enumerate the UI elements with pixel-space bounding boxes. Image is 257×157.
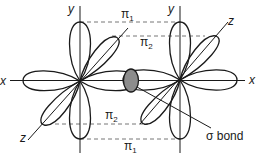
right-pz-lower-lobe (141, 80, 180, 124)
right-z-label: z (227, 14, 234, 28)
sigma-bond-label: σ bond (206, 129, 243, 143)
left-x-label: x (0, 74, 7, 88)
right-pz-upper-lobe (180, 36, 219, 80)
left-y-label: y (67, 2, 75, 16)
pi1-top-label: π1 (121, 7, 134, 23)
orbital-diagram: y y x x z z π1 π2 π2 π1 σ bond (0, 0, 257, 157)
left-pz-upper-lobe (80, 37, 119, 81)
pi1-bottom-label: π1 (124, 139, 137, 155)
left-z-label: z (19, 131, 26, 145)
pi2-top-label: π2 (140, 35, 153, 51)
pi2-bottom-label: π2 (105, 108, 118, 124)
right-y-label: y (167, 2, 175, 16)
sigma-overlap-region (124, 69, 139, 92)
right-x-label: x (248, 73, 256, 87)
